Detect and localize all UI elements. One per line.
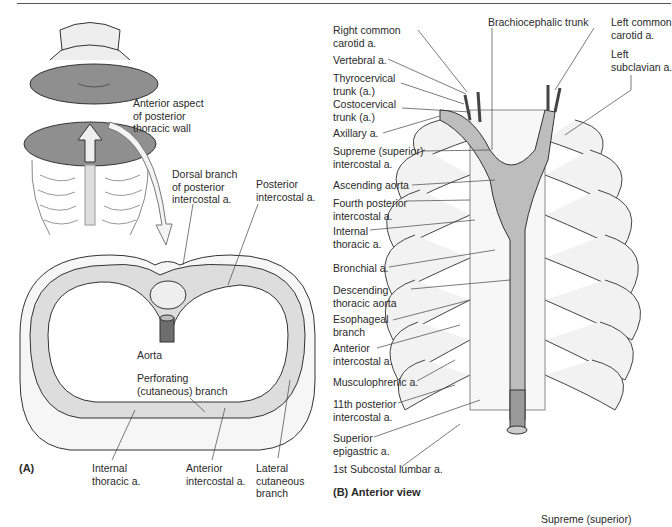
label-anterior-intercostal-b: Anteriorintercostal a. bbox=[333, 342, 393, 367]
label-internal-thoracic-a: Internal thoracic a. bbox=[92, 462, 140, 487]
label-costocervical: Costocervicaltrunk (a.) bbox=[333, 98, 396, 123]
label-dorsal-branch: Dorsal branch of posterior intercostal a… bbox=[172, 168, 237, 206]
label-brachiocephalic-trunk: Brachiocephalic trunk bbox=[488, 16, 588, 29]
label-anterior-intercostal-a: Anterior intercostal a. bbox=[186, 462, 246, 487]
label-vertebral: Vertebral a. bbox=[333, 54, 387, 67]
label-musculophrenic: Musculophrenic a. bbox=[333, 376, 418, 389]
label-aorta: Aorta bbox=[137, 349, 162, 362]
label-fourth-posterior: Fourth posteriorintercostal a. bbox=[333, 197, 407, 222]
label-thyrocervical: Thyrocervicaltrunk (a.) bbox=[333, 72, 395, 97]
label-ascending-aorta: Ascending aorta bbox=[333, 179, 409, 192]
label-lateral-cutaneous: Lateral cutaneous branch bbox=[256, 462, 304, 500]
label-anterior-aspect: Anterior aspect of posterior thoracic wa… bbox=[133, 97, 204, 135]
label-left-common-carotid: Left commoncarotid a. bbox=[611, 16, 672, 41]
label-perforating-branch: Perforating (cutaneous) branch bbox=[137, 372, 227, 397]
label-axillary: Axillary a. bbox=[333, 127, 379, 140]
label-posterior-intercostal: Posterior intercostal a. bbox=[256, 178, 316, 203]
thoracic-cross-section-icon bbox=[20, 255, 315, 450]
label-11th-posterior: 11th posteriorintercostal a. bbox=[333, 398, 396, 423]
panel-a-tag: (A) bbox=[19, 462, 34, 475]
label-right-common-carotid: Right commoncarotid a. bbox=[333, 24, 401, 49]
label-esophageal: Esophagealbranch bbox=[333, 313, 388, 338]
panel-b-tag: (B) Anterior view bbox=[333, 486, 421, 499]
anterior-ribcage-icon bbox=[385, 85, 641, 434]
label-superior-epigastric: Superiorepigastric a. bbox=[333, 432, 390, 457]
label-left-subclavian: Leftsubclavian a. bbox=[611, 48, 672, 73]
label-descending-aorta: Descendingthoracic aorta bbox=[333, 284, 397, 309]
footer-fragment: Supreme (superior) bbox=[541, 513, 631, 526]
label-internal-thoracic-b: Internalthoracic a. bbox=[333, 225, 381, 250]
label-supreme-intercostal: Supreme (superior)intercostal a. bbox=[333, 145, 423, 170]
label-bronchial: Bronchial a. bbox=[333, 262, 388, 275]
label-1st-subcostal: 1st Subcostal lumbar a. bbox=[333, 463, 443, 476]
upper-ribcage-icon bbox=[30, 23, 158, 105]
